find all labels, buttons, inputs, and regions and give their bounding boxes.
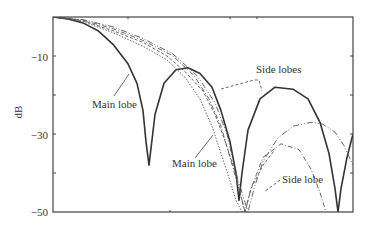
- chart: −10 −30 −50 dB Main lobe Side lobes Main…: [0, 0, 366, 226]
- annotation-main-lobe-2: Main lobe: [172, 157, 217, 169]
- y-tick-label: −30: [31, 129, 49, 141]
- annotation-arrow-main-lobe-2: [195, 135, 213, 158]
- annotation-arrow-side-lobes: [221, 80, 262, 91]
- annotation-main-lobe-1: Main lobe: [92, 98, 137, 110]
- y-axis-label: dB: [12, 106, 24, 119]
- annotation-arrow-side-lobe: [264, 180, 280, 192]
- series-line-dashed-2: [53, 17, 242, 212]
- y-tick-label: −50: [31, 206, 49, 218]
- annotation-side-lobes: Side lobes: [256, 63, 302, 75]
- annotation-arrow-main-lobe-1: [114, 74, 129, 96]
- annotation-side-lobe: Side lobe: [282, 173, 323, 185]
- y-tick-label: −10: [31, 51, 49, 63]
